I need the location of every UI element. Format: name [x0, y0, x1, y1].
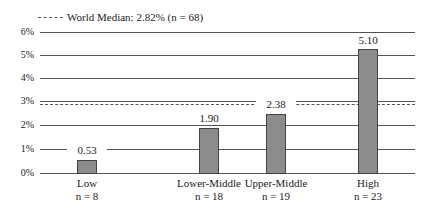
bar-value-lower-middle: 1.90 — [189, 113, 229, 124]
y-tick-1: 1% — [6, 144, 34, 154]
gridline-6 — [40, 32, 415, 33]
y-tick-4: 4% — [6, 73, 34, 83]
bar-lower-middle — [199, 128, 219, 174]
y-tick-0: 0% — [6, 168, 34, 178]
y-tick-2: 2% — [6, 120, 34, 130]
category-count: n = 19 — [226, 190, 326, 201]
category-count: n = 23 — [318, 190, 418, 201]
bar-value-upper-middle: 2.38 — [256, 99, 296, 110]
category-count: n = 8 — [37, 190, 137, 201]
bar-high — [358, 49, 378, 174]
category-label: High — [318, 177, 418, 190]
bar-value-high: 5.10 — [348, 35, 388, 46]
bar-value-low: 0.53 — [67, 145, 107, 156]
y-tick-3: 3% — [6, 96, 34, 106]
category-low: Low n = 8 — [37, 177, 137, 201]
bar-low — [77, 160, 97, 174]
y-tick-5: 5% — [6, 50, 34, 60]
dashed-line-swatch-icon — [38, 17, 63, 18]
y-tick-6: 6% — [6, 27, 34, 37]
legend-label: World Median: 2.82% (n = 68) — [67, 11, 203, 23]
bar-upper-middle — [266, 114, 286, 174]
category-upper-middle: Upper-Middle n = 19 — [226, 177, 326, 201]
category-label: Upper-Middle — [226, 177, 326, 190]
category-label: Low — [37, 177, 137, 190]
category-high: High n = 23 — [318, 177, 418, 201]
legend: World Median: 2.82% (n = 68) — [38, 9, 203, 25]
